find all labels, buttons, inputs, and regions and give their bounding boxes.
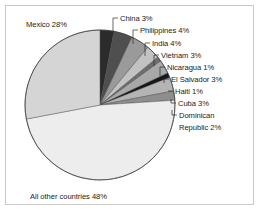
label-vietnam: Vietnam 3% bbox=[161, 51, 202, 60]
label-haiti: Haiti 1% bbox=[175, 87, 203, 96]
label-mexico: Mexico 28% bbox=[26, 20, 67, 29]
label-cuba: Cuba 3% bbox=[178, 99, 209, 108]
label-el-salvador: El Salvador 3% bbox=[171, 75, 223, 84]
label-philippines: Philippines 4% bbox=[140, 26, 189, 35]
pie-chart-figure: Mexico 28% China 3% Philippines 4% India… bbox=[0, 0, 261, 212]
pie-slice bbox=[25, 30, 100, 119]
label-nicaragua: Nicaragua 1% bbox=[167, 63, 214, 72]
pie-slices-group bbox=[25, 30, 175, 180]
chart-page: Mexico 28% China 3% Philippines 4% India… bbox=[0, 0, 261, 212]
label-india: India 4% bbox=[152, 39, 181, 48]
label-china: China 3% bbox=[120, 14, 153, 23]
label-all-other-countries: All other countries 48% bbox=[30, 192, 107, 201]
label-dominican-republic-line1: Dominican bbox=[179, 111, 214, 120]
label-dominican-republic-line2: Republic 2% bbox=[179, 123, 221, 132]
